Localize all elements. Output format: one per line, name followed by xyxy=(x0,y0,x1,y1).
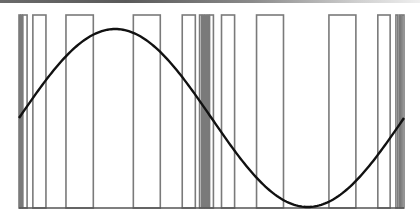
pulse-rect xyxy=(210,15,214,208)
pulse-rect xyxy=(402,15,404,208)
pulse-rect xyxy=(133,15,160,208)
pulse-rect xyxy=(329,15,356,208)
pulse-rect xyxy=(33,15,46,208)
pulse-rect xyxy=(200,15,202,208)
pulse-group xyxy=(19,15,404,208)
pulse-rect xyxy=(203,15,205,208)
chart-area xyxy=(0,0,420,221)
pulse-rect xyxy=(396,15,398,208)
pulse-rect xyxy=(257,15,284,208)
sine-pulse-chart xyxy=(0,0,420,221)
pulse-rect xyxy=(399,15,401,208)
pulse-rect xyxy=(378,15,390,208)
pulse-rect xyxy=(19,15,20,208)
sine-wave-line xyxy=(19,29,404,207)
pulse-rect xyxy=(222,15,235,208)
pulse-rect xyxy=(21,15,22,208)
pulse-rect xyxy=(182,15,195,208)
